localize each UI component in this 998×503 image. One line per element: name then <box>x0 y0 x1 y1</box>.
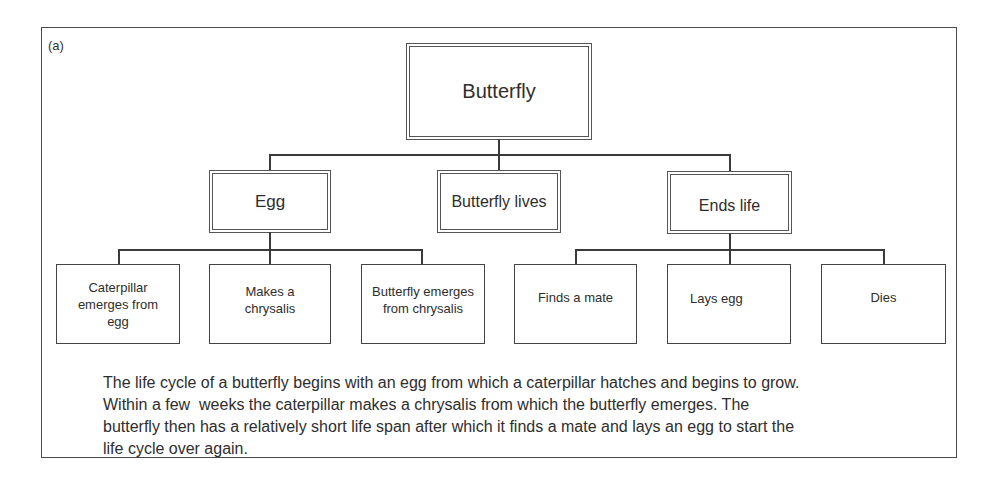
connector-to-butterfly-lives <box>498 154 500 170</box>
node-lays-egg-label: Lays egg <box>690 291 743 306</box>
caption-line-4: life cycle over again. <box>103 438 923 460</box>
node-butterfly-lives-label: Butterfly lives <box>451 193 546 211</box>
root-node-butterfly: Butterfly <box>406 43 592 140</box>
caption-line-1: The life cycle of a butterfly begins wit… <box>103 372 923 394</box>
connector-to-ends-life <box>729 154 731 171</box>
connector-level1-bar <box>269 154 730 156</box>
connector-egg-down <box>269 232 271 250</box>
root-node-label: Butterfly <box>462 80 535 103</box>
node-dies: Dies <box>821 264 946 344</box>
node-caterpillar-line-3: egg <box>107 313 129 330</box>
connector-to-butterfly-emerges <box>421 249 423 264</box>
node-butterfly-emerges: Butterfly emerges from chrysalis <box>361 264 485 344</box>
node-butterfly-emerges-line-2: from chrysalis <box>383 300 463 317</box>
node-caterpillar-line-2: emerges from <box>78 296 158 313</box>
connector-to-chrysalis <box>269 249 271 264</box>
panel-label: (a) <box>48 38 64 53</box>
node-egg-label: Egg <box>255 192 285 212</box>
node-makes-chrysalis-line-2: chrysalis <box>245 300 296 317</box>
node-finds-mate-label: Finds a mate <box>538 290 613 305</box>
connector-to-egg <box>269 154 271 170</box>
caption-line-2: Within a few weeks the caterpillar makes… <box>103 394 923 416</box>
node-finds-mate: Finds a mate <box>514 264 637 344</box>
node-ends-life: Ends life <box>667 171 792 234</box>
connector-to-caterpillar <box>118 249 120 264</box>
connector-ends-life-down <box>729 233 731 250</box>
node-butterfly-lives: Butterfly lives <box>437 170 561 233</box>
node-makes-chrysalis-line-1: Makes a <box>245 283 294 300</box>
node-caterpillar-line-1: Caterpillar <box>88 279 147 296</box>
caption-line-3: butterfly then has a relatively short li… <box>103 416 923 438</box>
node-dies-label: Dies <box>870 290 896 305</box>
node-butterfly-emerges-line-1: Butterfly emerges <box>372 283 474 300</box>
connector-to-lays-egg <box>729 249 731 264</box>
node-caterpillar-emerges: Caterpillar emerges from egg <box>56 264 180 344</box>
caption-paragraph: The life cycle of a butterfly begins wit… <box>103 372 923 460</box>
node-egg: Egg <box>209 170 331 233</box>
connector-root-down <box>498 139 500 155</box>
node-lays-egg: Lays egg <box>667 264 791 344</box>
node-makes-chrysalis: Makes a chrysalis <box>209 264 331 344</box>
connector-to-finds-mate <box>575 249 577 264</box>
node-ends-life-label: Ends life <box>699 197 760 215</box>
connector-to-dies <box>883 249 885 264</box>
